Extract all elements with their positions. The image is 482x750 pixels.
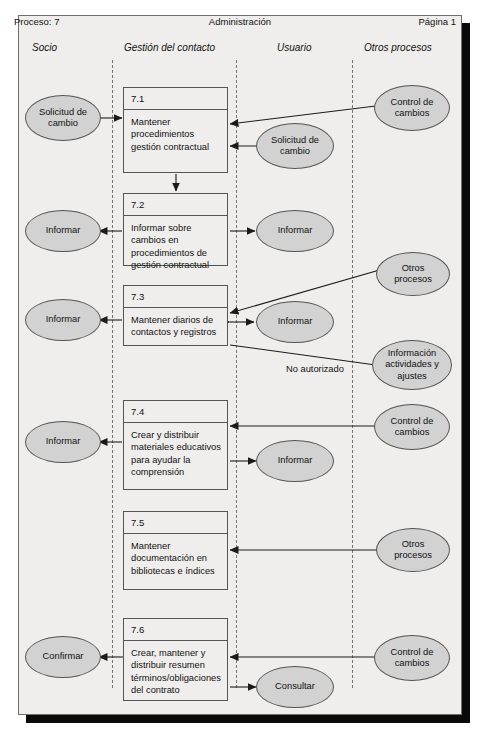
process-box-7-4[interactable]: 7.4 Crear y distribuir materiales educat… [123, 400, 228, 490]
page-title: Administración [18, 16, 462, 27]
process-number-7-1: 7.1 [124, 88, 227, 110]
entity-otros-control-de-cambios-3[interactable]: Control de cambios [374, 635, 450, 681]
process-text-7-6: Crear, mantener y distribuir resumen tér… [124, 641, 227, 697]
entity-usuario-informar-1[interactable]: Informar [256, 210, 334, 252]
process-text-7-5: Mantener documentación en bibliotecas e … [124, 534, 227, 577]
entity-socio-confirmar[interactable]: Confirmar [25, 636, 101, 678]
lane-title-usuario: Usuario [277, 42, 311, 53]
entity-otros-otros-procesos-2[interactable]: Otros procesos [376, 528, 450, 572]
process-box-7-3[interactable]: 7.3 Mantener diarios de contactos y regi… [123, 285, 228, 346]
process-number-7-2: 7.2 [124, 194, 227, 216]
process-box-7-5[interactable]: 7.5 Mantener documentación en biblioteca… [123, 511, 228, 590]
lane-title-otros-procesos: Otros procesos [364, 42, 432, 53]
entity-usuario-informar-3[interactable]: Informar [256, 440, 334, 482]
entity-socio-informar-1[interactable]: Informar [25, 210, 101, 252]
entity-usuario-solicitud-de-cambio[interactable]: Solicitud de cambio [256, 123, 334, 169]
entity-otros-control-de-cambios-1[interactable]: Control de cambios [374, 85, 450, 131]
process-text-7-2: Informar sobre cambios en procedimientos… [124, 216, 227, 272]
entity-socio-informar-3[interactable]: Informar [25, 421, 101, 463]
lane-title-gestion-del-contacto: Gestión del contacto [124, 42, 215, 53]
lane-separator-2 [236, 60, 237, 688]
process-text-7-3: Mantener diarios de contactos y registro… [124, 308, 227, 339]
lane-title-socio: Socio [32, 42, 57, 53]
process-number-7-6: 7.6 [124, 619, 227, 641]
entity-socio-solicitud-de-cambio[interactable]: Solicitud de cambio [25, 95, 101, 141]
process-number-7-5: 7.5 [124, 512, 227, 534]
entity-otros-control-de-cambios-2[interactable]: Control de cambios [374, 404, 450, 450]
entity-usuario-consultar[interactable]: Consultar [256, 666, 334, 708]
page-number-label: Página 1 [418, 16, 456, 27]
entity-otros-otros-procesos-1[interactable]: Otros procesos [376, 252, 450, 296]
process-text-7-1: Mantener procedimientos gestión contract… [124, 110, 227, 153]
process-box-7-1[interactable]: 7.1 Mantener procedimientos gestión cont… [123, 87, 228, 173]
lane-separator-1 [112, 60, 113, 688]
process-box-7-6[interactable]: 7.6 Crear, mantener y distribuir resumen… [123, 618, 228, 701]
lane-separator-3 [352, 60, 353, 688]
process-box-7-2[interactable]: 7.2 Informar sobre cambios en procedimie… [123, 193, 228, 266]
entity-socio-informar-2[interactable]: Informar [25, 299, 101, 341]
entity-otros-informacion-actividades-y-ajustes[interactable]: Información actividades y ajustes [372, 340, 452, 390]
process-number-7-4: 7.4 [124, 401, 227, 423]
process-text-7-4: Crear y distribuir materiales educativos… [124, 423, 227, 479]
process-number-7-3: 7.3 [124, 286, 227, 308]
edge-label-no-autorizado: No autorizado [286, 364, 344, 374]
entity-usuario-informar-2[interactable]: Informar [256, 301, 334, 343]
